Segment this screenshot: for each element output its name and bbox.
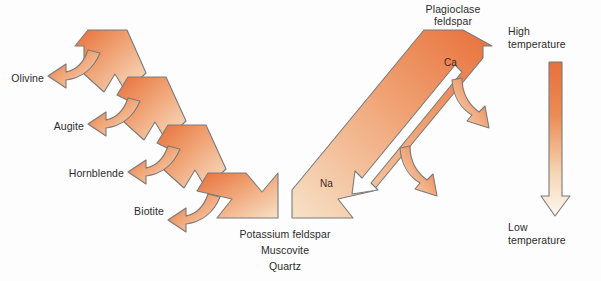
mineral-label-augite: Augite <box>14 120 84 133</box>
temperature-high-label-line2: temperature <box>508 38 566 51</box>
continuous-branch-arrow <box>452 78 489 128</box>
continuous-branch-arrow-lower <box>400 146 437 196</box>
diagram-canvas: Olivine Augite Hornblende Biotite Plagio… <box>0 0 601 281</box>
mineral-label-biotite: Biotite <box>96 205 164 218</box>
mineral-label-hornblende: Hornblende <box>34 167 124 180</box>
convergence-label-potassium-feldspar: Potassium feldspar <box>210 228 360 241</box>
continuous-arrow-body <box>292 30 492 218</box>
convergence-label-muscovite: Muscovite <box>210 244 360 257</box>
continuous-series-title-line1: Plagioclase <box>408 3 498 16</box>
continuous-series-title-line2: feldspar <box>408 15 498 28</box>
temperature-low-label-line1: Low <box>508 221 528 234</box>
temperature-high-label-line1: High <box>508 25 530 38</box>
temperature-bar <box>541 62 570 216</box>
ion-label-na: Na <box>320 178 333 189</box>
ion-label-ca: Ca <box>444 57 457 68</box>
mineral-label-olivine: Olivine <box>0 72 44 85</box>
branch-arrow-biotite <box>168 194 220 232</box>
temperature-gradient-arrow <box>541 62 570 216</box>
temperature-low-label-line2: temperature <box>508 234 566 247</box>
convergence-label-quartz: Quartz <box>210 260 360 273</box>
continuous-main-arrow <box>292 30 492 218</box>
